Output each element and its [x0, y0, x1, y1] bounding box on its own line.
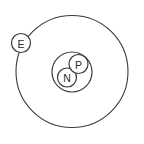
proton-label: P — [75, 59, 82, 71]
electron-label: E — [17, 38, 24, 50]
atom-diagram: N P E — [0, 0, 144, 144]
neutron-label: N — [63, 72, 71, 84]
atom-diagram-canvas: N P E — [0, 0, 144, 144]
